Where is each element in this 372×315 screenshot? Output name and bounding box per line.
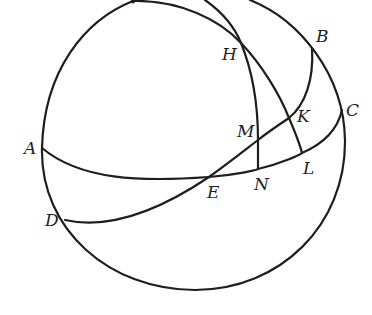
arc-d-e-m-k-b	[65, 48, 312, 223]
label-k: K	[296, 106, 311, 126]
label-d: D	[44, 210, 59, 230]
label-m: M	[236, 121, 255, 141]
label-l: L	[302, 158, 314, 178]
arc-top-h-k-l	[133, 1, 302, 153]
point-labels: A B C D E H K L M N	[22, 26, 359, 230]
arc-top-h-m-n	[205, 0, 258, 169]
label-h: H	[221, 44, 238, 64]
label-a: A	[22, 138, 36, 158]
label-c: C	[346, 100, 359, 120]
label-b: B	[315, 26, 329, 46]
label-e: E	[206, 182, 220, 202]
sphere-diagram: A B C D E H K L M N	[0, 0, 372, 315]
label-n: N	[253, 174, 270, 194]
top-junction-dot	[131, 0, 135, 4]
